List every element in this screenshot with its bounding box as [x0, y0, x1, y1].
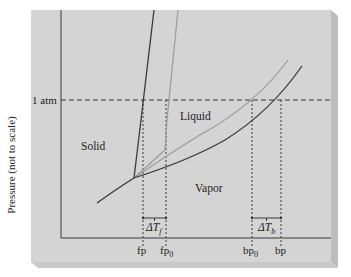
- panel-bevel-right: [331, 10, 338, 268]
- panel-bevel-bottom: [31, 262, 338, 268]
- y-axis-label: Pressure (not to scale): [5, 116, 18, 214]
- tick-label-bp: bp: [275, 244, 287, 256]
- region-label-vapor: Vapor: [195, 182, 223, 195]
- one-atm-label: 1 atm: [32, 94, 57, 106]
- diagram-canvas: 1 atm Solid Liquid Vapor ΔTf ΔTb fp fp0 …: [0, 0, 351, 277]
- panel-background: [31, 10, 331, 262]
- region-label-solid: Solid: [81, 140, 106, 152]
- phase-diagram: 1 atm Solid Liquid Vapor ΔTf ΔTb fp fp0 …: [0, 0, 351, 277]
- region-label-liquid: Liquid: [180, 110, 211, 123]
- tick-label-fp: fp: [137, 244, 147, 256]
